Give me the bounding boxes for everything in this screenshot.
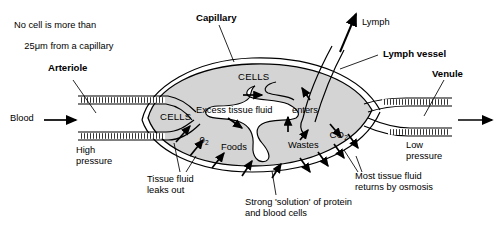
label-enters: enters: [292, 105, 318, 115]
note-distance-value: 25: [24, 41, 34, 51]
label-arteriole: Arteriole: [48, 63, 87, 74]
label-osmosis-2: returns by osmosis: [355, 182, 433, 192]
label-excess-tissue-fluid: Excess tissue fluid: [196, 105, 272, 115]
label-oxygen: 02: [188, 124, 209, 157]
note-line1: No cell is more than: [14, 20, 96, 30]
label-carbon-dioxide: CO2: [318, 119, 348, 152]
label-wastes: Wastes: [288, 140, 319, 150]
label-venule: Venule: [432, 69, 463, 80]
note-distance-unit: μm: [35, 41, 48, 51]
label-blood: Blood: [10, 113, 34, 123]
label-strong-solution-2: and blood cells: [245, 208, 307, 218]
label-high-pressure-2: pressure: [76, 156, 112, 166]
label-low-pressure-2: pressure: [406, 151, 442, 161]
co2-symbol: CO: [329, 129, 344, 140]
label-capillary: Capillary: [196, 13, 237, 24]
label-cells-left: CELLS: [160, 112, 191, 123]
label-high-pressure-1: High: [76, 145, 95, 155]
diagram-canvas: No cell is more than 25μm from a capilla…: [0, 0, 500, 234]
note-line2-tail: from a capillary: [48, 41, 114, 51]
label-low-pressure-1: Low: [406, 140, 423, 150]
venule-vessel-lower: [364, 118, 452, 136]
oxygen-subscript: 2: [205, 139, 209, 146]
label-tissue-fluid-1: Tissue fluid: [147, 174, 194, 184]
note-line2: 25μm from a capillary: [14, 31, 113, 62]
label-lymph-vessel: Lymph vessel: [383, 49, 446, 60]
label-cells-top: CELLS: [238, 72, 269, 83]
label-strong-solution-1: Strong 'solution' of protein: [245, 197, 352, 207]
label-foods: Foods: [221, 142, 247, 152]
label-lymph: Lymph: [362, 17, 390, 27]
label-tissue-fluid-2: leaks out: [147, 185, 184, 195]
co2-subscript: 2: [344, 134, 348, 141]
label-osmosis-1: Most tissue fluid: [355, 171, 422, 181]
